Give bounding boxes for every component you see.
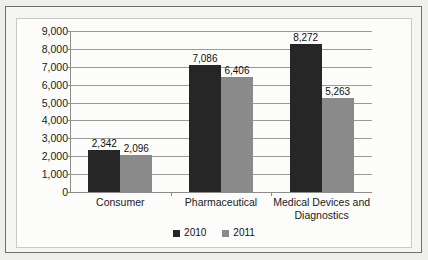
- legend-item[interactable]: 2011: [222, 228, 255, 238]
- bar-group: 2,3422,096: [70, 31, 171, 192]
- bar-value-label: 8,272: [284, 32, 328, 43]
- bar-groups: 2,3422,0967,0866,4068,2725,263: [70, 31, 372, 192]
- bar[interactable]: [120, 155, 152, 192]
- category-label: Pharmaceutical: [171, 196, 272, 209]
- legend-swatch-icon: [222, 230, 229, 237]
- legend-label: 2011: [233, 228, 255, 238]
- category-label-line: Diagnostics: [271, 209, 372, 222]
- y-axis-tick-label: 3,000: [16, 132, 68, 144]
- chart-screenshot: 9,0008,0007,0006,0005,0004,0003,0002,000…: [0, 0, 428, 260]
- y-axis-tick-label: 9,000: [16, 25, 68, 37]
- y-axis-tick-label: 1,000: [16, 168, 68, 180]
- legend-item[interactable]: 2010: [173, 228, 206, 238]
- category-label-line: Pharmaceutical: [171, 196, 272, 209]
- bar[interactable]: [88, 150, 120, 192]
- category-label-line: Medical Devices and: [271, 196, 372, 209]
- bar[interactable]: [189, 65, 221, 192]
- bar-value-label: 6,406: [215, 65, 259, 76]
- bar-value-label: 7,086: [183, 53, 227, 64]
- bar-group: 8,2725,263: [271, 31, 372, 192]
- bar[interactable]: [221, 77, 253, 192]
- category-label: Medical Devices andDiagnostics: [271, 196, 372, 221]
- bar[interactable]: [290, 44, 322, 192]
- y-axis-tick-label: 7,000: [16, 61, 68, 73]
- bar-value-label: 5,263: [316, 86, 360, 97]
- y-axis-tick-label: 2,000: [16, 150, 68, 162]
- category-labels: ConsumerPharmaceuticalMedical Devices an…: [70, 196, 372, 226]
- legend-label: 2010: [184, 228, 206, 238]
- chart-legend: 20102011: [16, 225, 412, 241]
- legend-swatch-icon: [173, 230, 180, 237]
- bar-value-label: 2,096: [114, 143, 158, 154]
- x-axis-line: [70, 192, 372, 193]
- category-label-line: Consumer: [70, 196, 171, 209]
- y-axis-tick-label: 8,000: [16, 43, 68, 55]
- y-axis-labels: 9,0008,0007,0006,0005,0004,0003,0002,000…: [16, 24, 68, 200]
- y-axis-tick-label: 0: [16, 186, 68, 198]
- y-axis-tick-label: 4,000: [16, 114, 68, 126]
- y-axis-tick-label: 6,000: [16, 79, 68, 91]
- bar-group: 7,0866,406: [171, 31, 272, 192]
- category-label: Consumer: [70, 196, 171, 209]
- y-axis-tick-label: 5,000: [16, 97, 68, 109]
- bar[interactable]: [322, 98, 354, 192]
